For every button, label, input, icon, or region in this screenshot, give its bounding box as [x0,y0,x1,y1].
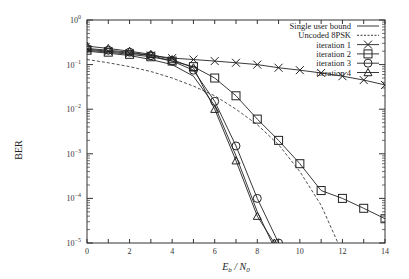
legend-label: iteration 4 [316,68,351,78]
y-tick-label: 10−1 [67,59,81,70]
x-title-sub-0: 0 [246,266,250,274]
series-single-user-bound [87,51,272,243]
x-tick-label: 6 [213,247,217,256]
y-tick-label: 10−2 [67,103,81,114]
series-iteration-4 [83,42,278,246]
y-tick-label: 10−4 [67,192,81,203]
y-tick-label: 10−3 [67,148,81,159]
series-line [87,48,279,243]
y-tick-label: 100 [70,14,81,25]
x-title-e: E [221,261,228,272]
x-axis-title: Eb / N0 [221,261,250,274]
series-line [87,51,272,243]
x-tick-label: 4 [170,247,174,256]
x-tick-label: 0 [85,247,89,256]
x-tick-label: 8 [255,247,259,256]
series-line [87,46,274,243]
x-tick-label: 14 [381,247,389,256]
series-line [87,60,364,253]
y-axis-title: BER [13,140,24,160]
x-tick-label: 2 [128,247,132,256]
ber-chart: 0246810121410010−110−210−310−410−5 Singl… [0,0,409,279]
x-tick-label: 10 [296,247,304,256]
x-tick-label: 12 [338,247,346,256]
x-marker-icon [360,76,368,84]
series-iteration-3 [83,44,283,247]
legend: Single user boundUncoded 8PSKiteration 1… [290,21,379,78]
series-uncoded-8psk [87,60,364,253]
y-tick-label: 10−5 [67,237,81,248]
x-title-n: / N [232,261,248,272]
